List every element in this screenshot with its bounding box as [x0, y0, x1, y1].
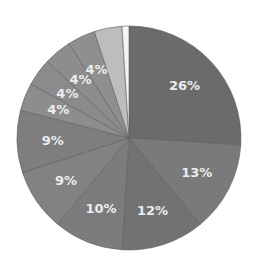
- slice-percent-label: 4%: [86, 62, 108, 77]
- slice-percent-label: 9%: [55, 173, 77, 188]
- slice-percent-label: 4%: [56, 86, 78, 101]
- pie-chart: 26%13%12%10%9%9%4%4%4%4%: [0, 0, 266, 276]
- slice-percent-label: 4%: [47, 102, 69, 117]
- slice-percent-label: 12%: [137, 203, 168, 218]
- slice-percent-label: 26%: [169, 78, 200, 93]
- slice-percent-label: 10%: [85, 201, 116, 216]
- slice-percent-label: 9%: [42, 133, 64, 148]
- slice-percent-label: 13%: [181, 165, 212, 180]
